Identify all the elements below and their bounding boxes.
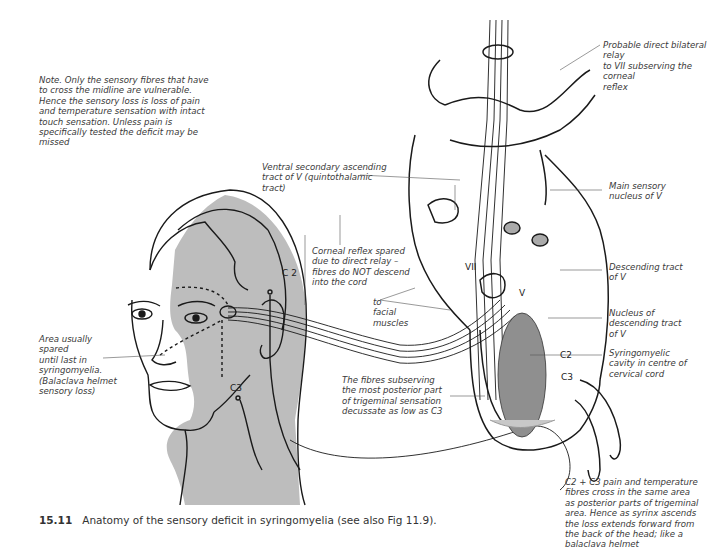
label-corneal-reflex: Corneal reflex spared due to direct rela… — [312, 246, 432, 288]
label-ventral-tract: Ventral secondary ascending tract of V (… — [262, 162, 402, 193]
figure-caption: 15.11Anatomy of the sensory deficit in s… — [39, 514, 437, 526]
label-syringomyelic-cavity: Syringomyelic cavity in centre of cervic… — [609, 348, 716, 379]
label-c3-head: C3 — [230, 383, 242, 393]
label-c2-cord: C2 — [560, 350, 572, 360]
label-bilateral-relay: Probable direct bilateral relay to VII s… — [603, 40, 716, 92]
figure-caption-text: Anatomy of the sensory deficit in syring… — [82, 514, 436, 526]
note-midline: Note. Only the sensory fibres that have … — [39, 75, 219, 148]
syrinx-cavity — [498, 313, 546, 437]
label-nucleus-descending-tract: Nucleus of descending tract of V — [609, 308, 716, 339]
figure-number: 15.11 — [39, 514, 72, 526]
label-v: V — [519, 288, 525, 298]
label-descending-tract: Descending tract of V — [609, 262, 716, 283]
label-c3-cord: C3 — [561, 372, 573, 382]
label-facial-muscles: to facial muscles — [373, 297, 423, 328]
label-area-spared: Area usually spared until last in syring… — [39, 334, 149, 396]
label-c2-c3-fibres: C2 + C3 pain and temperature fibres cros… — [565, 477, 716, 550]
label-main-sensory-nucleus: Main sensory nucleus of V — [609, 181, 716, 202]
label-vii: VII — [465, 262, 476, 272]
label-posterior-fibres: The fibres subserving the most posterior… — [342, 375, 482, 417]
head-drawing — [128, 190, 306, 505]
label-c2-head: C 2 — [282, 268, 297, 278]
